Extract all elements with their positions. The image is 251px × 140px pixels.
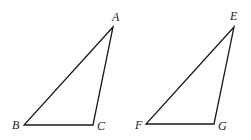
- vertex-label-f: F: [134, 118, 143, 132]
- triangle-abc: [24, 27, 113, 125]
- vertex-label-b: B: [12, 118, 20, 132]
- vertex-label-c: C: [97, 119, 106, 133]
- vertex-label-e: E: [229, 9, 238, 23]
- vertex-label-g: G: [218, 119, 227, 133]
- triangle-efg: [146, 27, 234, 124]
- congruent-triangles-diagram: A B C E F G: [0, 0, 251, 140]
- vertex-label-a: A: [111, 10, 120, 24]
